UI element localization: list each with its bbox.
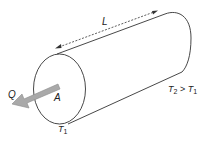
cylinder-diagram: L Q A T1 T2 > T1 (0, 0, 205, 146)
length-label: L (102, 16, 108, 27)
t1-label: T1 (58, 124, 68, 135)
t2-relation-label: T2 > T1 (168, 84, 197, 95)
cylinder-far-end-arc (165, 12, 191, 72)
length-arrowhead-left (55, 44, 62, 49)
length-arrowhead-right (152, 11, 158, 15)
area-label: A (53, 92, 61, 103)
cylinder-top-edge (57, 14, 165, 54)
heat-flow-label: Q (8, 89, 16, 100)
